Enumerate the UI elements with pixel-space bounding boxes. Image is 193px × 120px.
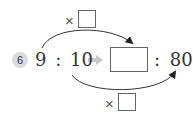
left-ratio: 9 : 10: [35, 50, 93, 70]
right-ratio-b: 80: [170, 49, 193, 70]
answer-box-right-a[interactable]: [110, 47, 148, 72]
top-multiplier-box[interactable]: [78, 10, 96, 28]
problem-number-badge: 6: [12, 52, 28, 68]
times-icon: ×: [65, 13, 74, 29]
bottom-curve-arrow: [72, 72, 175, 90]
right-ratio: : 80: [154, 50, 193, 70]
left-ratio-sep: :: [55, 49, 61, 70]
left-ratio-b: 10: [70, 49, 93, 70]
top-curve-arrow: [42, 30, 132, 48]
times-icon: ×: [105, 96, 114, 112]
bottom-multiplier-box[interactable]: [118, 93, 136, 111]
right-ratio-sep: :: [154, 49, 160, 70]
left-ratio-a: 9: [35, 49, 46, 70]
